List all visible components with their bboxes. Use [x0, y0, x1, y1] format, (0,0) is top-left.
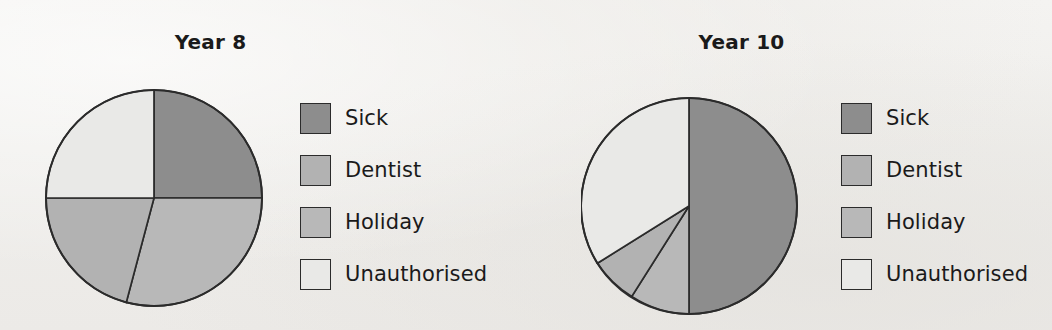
- legend-swatch-unauthorised-year-8: [300, 259, 331, 290]
- legend-label-unauthorised-year-8: Unauthorised: [345, 264, 487, 285]
- legend-label-holiday-year-10: Holiday: [886, 212, 966, 233]
- legend-label-sick-year-8: Sick: [345, 108, 388, 129]
- pie-chart-year-10: [581, 88, 801, 328]
- legend-swatch-sick-year-8: [300, 103, 331, 134]
- legend-item-dentist-year-10[interactable]: Dentist: [841, 155, 1028, 185]
- legend-item-unauthorised-year-8[interactable]: Unauthorised: [300, 259, 487, 289]
- legend-swatch-holiday-year-8: [300, 207, 331, 238]
- pie-slice-sick-year-10: [689, 98, 797, 314]
- legend-item-dentist-year-8[interactable]: Dentist: [300, 155, 487, 185]
- legend-label-dentist-year-10: Dentist: [886, 160, 962, 181]
- legend-swatch-dentist-year-8: [300, 155, 331, 186]
- legend-item-sick-year-8[interactable]: Sick: [300, 103, 487, 133]
- legend-swatch-unauthorised-year-10: [841, 259, 872, 290]
- legend-item-sick-year-10[interactable]: Sick: [841, 103, 1028, 133]
- pie-slice-unauthorised-year-8: [46, 90, 154, 198]
- pie-slice-sick-year-8: [154, 90, 262, 198]
- legend-label-holiday-year-8: Holiday: [345, 212, 425, 233]
- pie-svg-year-8: [44, 88, 264, 308]
- pie-chart-year-8: [44, 88, 264, 308]
- legend-year-8: Sick Dentist Holiday Unauthorised: [300, 103, 487, 289]
- legend-item-holiday-year-8[interactable]: Holiday: [300, 207, 487, 237]
- legend-swatch-sick-year-10: [841, 103, 872, 134]
- legend-label-sick-year-10: Sick: [886, 108, 929, 129]
- legend-item-holiday-year-10[interactable]: Holiday: [841, 207, 1028, 237]
- chart-panel-year-10: Year 10 Sick Dentist: [526, 0, 1052, 330]
- legend-swatch-holiday-year-10: [841, 207, 872, 238]
- legend-label-unauthorised-year-10: Unauthorised: [886, 264, 1028, 285]
- pie-svg-year-10: [581, 88, 801, 328]
- legend-swatch-dentist-year-10: [841, 155, 872, 186]
- legend-label-dentist-year-8: Dentist: [345, 160, 421, 181]
- legend-item-unauthorised-year-10[interactable]: Unauthorised: [841, 259, 1028, 289]
- pie-chart-pair: Year 8 Sick Dentist: [0, 0, 1052, 330]
- legend-year-10: Sick Dentist Holiday Unauthorised: [841, 103, 1028, 289]
- chart-title-year-10: Year 10: [431, 30, 1052, 54]
